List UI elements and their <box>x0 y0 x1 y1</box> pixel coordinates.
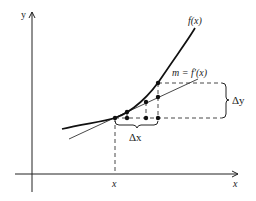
x-tick-label: x <box>111 178 117 189</box>
dashed-guides <box>115 83 222 174</box>
delta-x-brace <box>115 121 158 128</box>
curve-label: f(x) <box>188 15 203 27</box>
derivative-diagram: y x x Δy Δx m = f′(x) f(x) <box>0 0 256 201</box>
tangent-label: m = f′(x) <box>172 67 208 79</box>
tangent-line <box>69 79 198 139</box>
delta-x-label: Δx <box>129 131 142 143</box>
delta-y-brace <box>222 83 229 118</box>
delta-y-label: Δy <box>232 94 245 106</box>
sample-points <box>113 81 160 120</box>
curve-f <box>62 28 195 129</box>
y-axis-label: y <box>21 9 26 20</box>
x-axis-label: x <box>232 178 238 189</box>
